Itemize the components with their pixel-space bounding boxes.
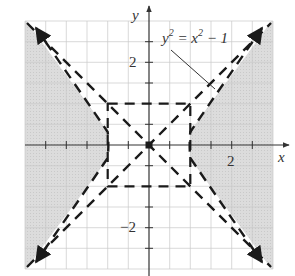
y-axis-label: y	[130, 7, 139, 23]
equation-label: y2 = x2 − 1	[160, 27, 228, 46]
x-axis-label: x	[277, 149, 285, 165]
hyperbola-graph: y x 2 2 −2 y2 = x2 − 1	[0, 0, 295, 276]
y-tick-label-neg2: −2	[120, 219, 136, 235]
eq-tail: − 1	[203, 30, 228, 46]
eq-mid: = x	[174, 30, 199, 46]
origin-marker	[146, 142, 153, 149]
x-tick-label-2: 2	[227, 153, 235, 169]
y-tick-label-2: 2	[129, 54, 137, 70]
eq-y: y	[160, 30, 169, 46]
